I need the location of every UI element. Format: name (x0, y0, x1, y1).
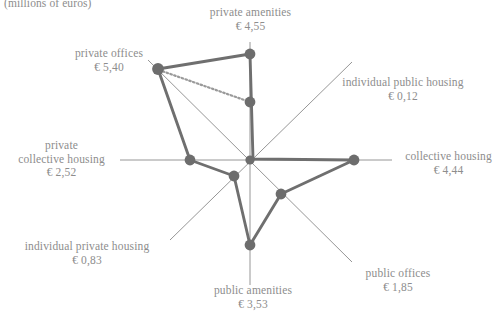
label-individual-private-housing: individual private housing € 0,83 (7, 240, 167, 267)
label-collective-housing: collective housing € 4,44 (396, 150, 500, 177)
data-point-collective-housing (349, 155, 360, 166)
label-private-collective-housing-line2: collective housing (4, 153, 119, 167)
label-public-offices-value: € 1,85 (348, 281, 448, 295)
label-private-amenities-value: € 4,55 (188, 20, 313, 34)
label-public-offices: public offices € 1,85 (348, 267, 448, 294)
label-individual-public-housing-name: individual public housing (323, 76, 483, 90)
data-point-private-collective-housing (185, 155, 196, 166)
label-individual-private-housing-name: individual private housing (7, 240, 167, 254)
label-private-collective-housing-value: € 2,52 (4, 166, 119, 180)
data-point-private-amenities-inner (245, 97, 256, 108)
data-point-center-origin (245, 155, 254, 164)
label-public-offices-name: public offices (348, 267, 448, 281)
label-private-amenities-name: private amenities (188, 6, 313, 20)
label-individual-public-housing: individual public housing € 0,12 (323, 76, 483, 103)
data-point-private-amenities (245, 49, 256, 60)
label-collective-housing-value: € 4,44 (396, 164, 500, 178)
label-private-offices: private offices € 5,40 (58, 47, 160, 74)
data-point-individual-private-housing (229, 171, 240, 182)
dotted-connector (159, 70, 250, 102)
label-private-collective-housing: private collective housing € 2,52 (4, 139, 119, 180)
label-private-amenities: private amenities € 4,55 (188, 6, 313, 33)
radar-chart-figure: (millions of euros) (0, 0, 500, 312)
label-private-offices-name: private offices (58, 47, 160, 61)
data-point-public-offices (276, 189, 287, 200)
label-individual-private-housing-value: € 0,83 (7, 254, 167, 268)
data-point-public-amenities (245, 240, 256, 251)
label-private-offices-value: € 5,40 (58, 61, 160, 75)
label-private-collective-housing-line1: private (4, 139, 119, 153)
dotted-connector-line (159, 70, 250, 102)
label-individual-public-housing-value: € 0,12 (323, 90, 483, 104)
label-public-amenities: public amenities € 3,53 (193, 284, 313, 311)
label-collective-housing-name: collective housing (396, 150, 500, 164)
label-public-amenities-name: public amenities (193, 284, 313, 298)
label-public-amenities-value: € 3,53 (193, 298, 313, 312)
